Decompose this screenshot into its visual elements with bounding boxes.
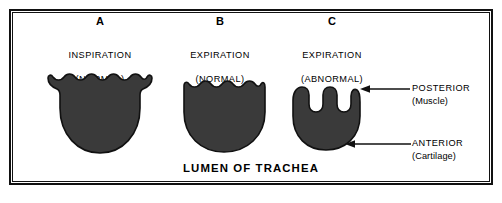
panel-caption-a-line1: INSPIRATION [69,50,132,60]
anterior-label-main: ANTERIOR [412,137,463,150]
anterior-annotation: ANTERIOR (Cartilage) [412,137,463,162]
anterior-leader-arrow [343,137,411,151]
posterior-leader-arrow [358,82,410,96]
panel-letter-c: C [290,15,374,27]
figure-main-caption: LUMEN OF TRACHEA [0,162,502,174]
posterior-annotation: POSTERIOR (Muscle) [412,82,470,107]
trachea-lumen-figure: A INSPIRATION (NORMAL) B EXPIRATION (NOR… [0,0,502,203]
panel-letter-a: A [58,15,142,27]
panel-caption-b-line1: EXPIRATION [190,50,249,60]
panel-letter-b: B [178,15,262,27]
posterior-label-main: POSTERIOR [412,82,470,95]
posterior-label-sub: (Muscle) [412,95,470,108]
panel-caption-c-line1: EXPIRATION [302,50,361,60]
trachea-lumen-shape-b [176,74,272,158]
anterior-label-sub: (Cartilage) [412,150,463,163]
trachea-lumen-shape-a [42,72,162,158]
panel-caption-c: EXPIRATION (ABNORMAL) [278,37,386,85]
